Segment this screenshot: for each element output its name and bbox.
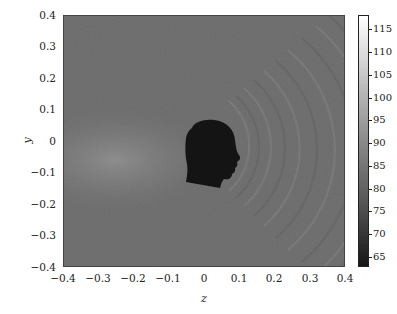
x-tick: 0 (184, 272, 224, 284)
colorbar-tick: 115 (373, 23, 392, 35)
colorbar (358, 15, 369, 267)
x-tick: 0.3 (290, 272, 330, 284)
y-tick: −0.1 (12, 166, 56, 178)
colorbar-tick: 105 (373, 69, 392, 81)
colorbar-tick: 70 (373, 228, 386, 240)
y-tick: 0.4 (12, 9, 56, 21)
y-tick: 0.1 (12, 103, 56, 115)
colorbar-tick: 85 (373, 160, 386, 172)
colorbar-tick: 100 (373, 92, 392, 104)
x-axis-label: z (201, 292, 207, 305)
x-tick: −0.1 (148, 272, 188, 284)
x-tick: −0.4 (43, 272, 83, 284)
colorbar-tick: 95 (373, 114, 386, 126)
x-tick: −0.2 (113, 272, 153, 284)
colorbar-tick: 80 (373, 183, 386, 195)
colorbar-tick: 65 (373, 251, 386, 263)
y-axis-label: y (21, 137, 34, 143)
colorbar-tick: 75 (373, 205, 386, 217)
y-tick: −0.3 (12, 229, 56, 241)
x-tick: −0.3 (78, 272, 118, 284)
y-tick: −0.2 (12, 198, 56, 210)
colorbar-tick: 110 (373, 46, 392, 58)
x-tick: 0.1 (219, 272, 259, 284)
x-tick: 0.4 (325, 272, 365, 284)
colorbar-tick: 90 (373, 137, 386, 149)
x-tick: 0.2 (254, 272, 294, 284)
y-tick: 0.3 (12, 40, 56, 52)
heatmap-plot-area (63, 15, 345, 267)
field-image (64, 16, 345, 267)
y-tick: 0.2 (12, 72, 56, 84)
y-tick: 0 (12, 135, 56, 147)
